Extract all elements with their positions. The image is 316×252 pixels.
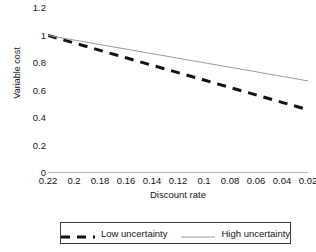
legend-label: High uncertainty (221, 228, 290, 239)
x-axis-tick-labels: 0.220.20.180.160.140.120.10.080.060.040.… (44, 175, 314, 189)
x-tick-label: 0.22 (39, 175, 58, 187)
legend-label: Low uncertainty (101, 228, 168, 239)
y-tick-label: 0.6 (10, 86, 46, 96)
x-tick-label: 0.14 (143, 175, 162, 187)
plot-svg (48, 8, 308, 173)
x-tick-label: 0.08 (221, 175, 240, 187)
dashed-line-swatch (61, 228, 95, 238)
y-tick-label: 0.8 (10, 58, 46, 68)
plot-area (48, 8, 308, 173)
x-tick-label: 0.06 (247, 175, 266, 187)
legend-entry[interactable]: Low uncertainty (61, 228, 168, 239)
legend-entry[interactable]: High uncertainty (181, 228, 290, 239)
x-tick-label: 0.2 (67, 175, 80, 187)
x-tick-label: 0.18 (91, 175, 110, 187)
series-line-low-uncertainty (48, 36, 308, 110)
x-axis-title: Discount rate (48, 189, 308, 200)
y-tick-label: 1.2 (10, 3, 46, 13)
series-group (48, 36, 308, 110)
x-tick-label: 0.02 (299, 175, 316, 187)
y-tick-label: 0.4 (10, 113, 46, 123)
chart-legend: Low uncertaintyHigh uncertainty (60, 222, 291, 244)
y-tick-label: 0.2 (10, 141, 46, 151)
y-tick-label: 1 (10, 31, 46, 41)
chart-figure: Variable cost 1.210.80.60.40.20 0.220.20… (0, 0, 316, 252)
x-tick-label: 0.1 (197, 175, 210, 187)
x-tick-label: 0.12 (169, 175, 188, 187)
y-axis-tick-labels: 1.210.80.60.40.20 (8, 0, 46, 252)
solid-line-swatch (181, 228, 215, 238)
x-tick-label: 0.04 (273, 175, 292, 187)
x-tick-label: 0.16 (117, 175, 136, 187)
